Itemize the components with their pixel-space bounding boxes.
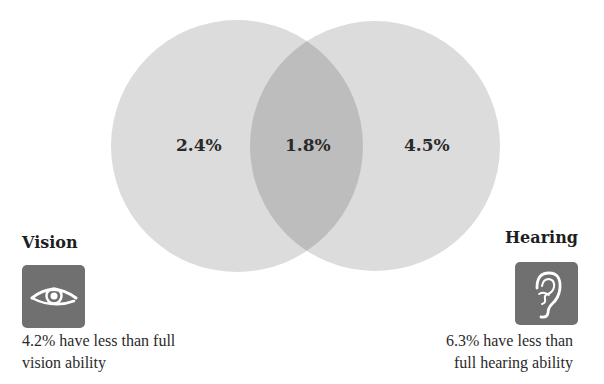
- vision-desc-line-1: 4.2% have less than full: [22, 330, 175, 352]
- vision-desc-line-2: vision ability: [22, 352, 175, 374]
- hearing-icon-box: [515, 262, 578, 325]
- hearing-description: 6.3% have less than full hearing ability: [446, 330, 573, 374]
- hearing-only-value: 4.5%: [404, 135, 450, 155]
- hearing-heading: Hearing: [505, 228, 578, 247]
- vision-icon-box: [22, 265, 85, 328]
- overlap-value: 1.8%: [285, 135, 331, 155]
- ear-icon: [515, 262, 578, 325]
- vision-only-value: 2.4%: [176, 135, 222, 155]
- hearing-desc-line-2: full hearing ability: [446, 352, 573, 374]
- vision-heading: Vision: [22, 233, 78, 252]
- vision-description: 4.2% have less than full vision ability: [22, 330, 175, 374]
- eye-icon: [22, 265, 85, 328]
- hearing-desc-line-1: 6.3% have less than: [446, 330, 573, 352]
